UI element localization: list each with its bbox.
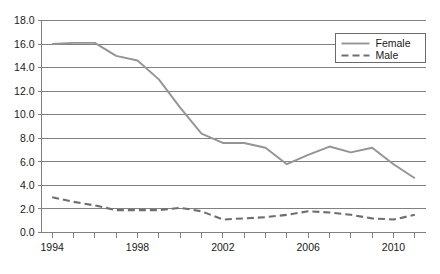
y-tick-label: 16.0: [14, 38, 35, 50]
y-tick-label: 14.0: [14, 61, 35, 73]
y-tick-label: 0.0: [20, 226, 35, 238]
y-axis-tick-labels: 0.02.04.06.08.010.012.014.016.018.0: [14, 14, 35, 238]
series-line-female: [52, 43, 415, 178]
line-chart: 0.02.04.06.08.010.012.014.016.018.0 1994…: [0, 0, 440, 274]
chart-canvas: 0.02.04.06.08.010.012.014.016.018.0 1994…: [0, 0, 440, 274]
x-tick-marks-group: [52, 233, 415, 238]
legend: Female Male: [336, 34, 426, 63]
x-tick-label: 1998: [126, 241, 150, 253]
legend-label-female: Female: [376, 37, 411, 49]
y-tick-label: 2.0: [20, 203, 35, 215]
y-tick-label: 12.0: [14, 85, 35, 97]
x-tick-label: 1994: [40, 241, 64, 253]
x-tick-label: 2006: [296, 241, 320, 253]
y-tick-label: 4.0: [20, 179, 35, 191]
x-tick-label: 2010: [382, 241, 406, 253]
y-tick-label: 10.0: [14, 108, 35, 120]
legend-label-male: Male: [376, 49, 399, 61]
x-axis-tick-labels: 19941998200220062010: [40, 241, 405, 253]
y-tick-label: 6.0: [20, 156, 35, 168]
y-tick-marks-group: [38, 21, 42, 233]
y-tick-label: 18.0: [14, 14, 35, 26]
x-tick-label: 2002: [211, 241, 235, 253]
y-tick-label: 8.0: [20, 132, 35, 144]
series-line-male: [52, 197, 415, 219]
